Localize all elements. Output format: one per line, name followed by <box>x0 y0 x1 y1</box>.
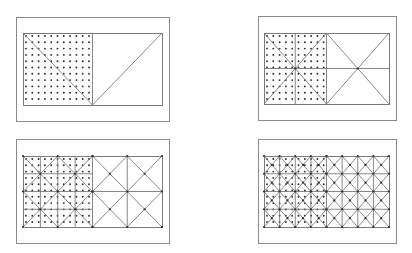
sample-dot <box>75 202 77 204</box>
vertex-node <box>357 190 359 192</box>
sample-dot <box>82 171 84 173</box>
sample-dot <box>304 177 306 179</box>
sample-dot <box>38 85 40 87</box>
sample-dot <box>75 98 77 100</box>
sample-dot <box>310 73 312 75</box>
sample-dot <box>266 73 268 75</box>
sample-dot <box>38 35 40 37</box>
vertex-node <box>388 226 390 228</box>
vertex-node <box>294 190 296 192</box>
sample-dot <box>323 41 325 43</box>
center-node <box>318 182 320 184</box>
sample-dot <box>50 202 52 204</box>
sample-dot <box>82 79 84 81</box>
vertex-node <box>325 173 327 175</box>
center-node <box>380 217 382 219</box>
sample-dot <box>316 48 318 50</box>
sample-dot <box>279 92 281 94</box>
sample-dot <box>310 41 312 43</box>
sample-dot <box>50 177 52 179</box>
sample-dot <box>69 171 71 173</box>
sample-dot <box>75 183 77 185</box>
sample-dot <box>323 215 325 217</box>
vertex-node <box>357 208 359 210</box>
sample-dot <box>50 85 52 87</box>
sample-dot <box>279 48 281 50</box>
vertex-node <box>91 226 93 228</box>
center-node <box>380 164 382 166</box>
sample-dot <box>88 183 90 185</box>
sample-dot <box>31 202 33 204</box>
sample-dot <box>63 92 65 94</box>
center-node <box>333 199 335 201</box>
vertex-node <box>294 208 296 210</box>
sample-dot <box>75 41 77 43</box>
diagonal-line <box>93 33 163 105</box>
sample-dot <box>31 54 33 56</box>
sample-dot <box>272 85 274 87</box>
vertex-node <box>263 226 265 228</box>
sample-dot <box>82 92 84 94</box>
sample-dot <box>298 41 300 43</box>
sample-dot <box>63 164 65 166</box>
sample-dot <box>304 54 306 56</box>
vertex-node <box>57 155 59 157</box>
vertex-node <box>341 173 343 175</box>
sample-dot <box>298 202 300 204</box>
vertex-node <box>294 155 296 157</box>
sample-dot <box>69 67 71 69</box>
sample-dot <box>279 98 281 100</box>
center-node <box>109 173 111 175</box>
vertex-node <box>341 190 343 192</box>
vertex-node <box>357 155 359 157</box>
sample-dot <box>38 73 40 75</box>
center-node <box>318 199 320 201</box>
sample-dot <box>323 54 325 56</box>
sample-dot <box>266 202 268 204</box>
center-node <box>380 182 382 184</box>
sample-dot <box>69 98 71 100</box>
sample-dot <box>323 92 325 94</box>
sample-dot <box>25 60 27 62</box>
vertex-node <box>91 155 93 157</box>
vertex-node <box>279 208 281 210</box>
vertex-node <box>372 208 374 210</box>
sample-dot <box>75 196 77 198</box>
vertex-node <box>388 190 390 192</box>
sample-dot <box>266 164 268 166</box>
sample-dot <box>50 92 52 94</box>
sample-dot <box>291 48 293 50</box>
sample-dot <box>88 73 90 75</box>
sample-dot <box>279 41 281 43</box>
vertex-node <box>310 208 312 210</box>
sample-dot <box>69 158 71 160</box>
sample-dot <box>88 35 90 37</box>
sample-dot <box>304 35 306 37</box>
sample-dot <box>82 158 84 160</box>
sample-dot <box>272 48 274 50</box>
sample-dot <box>316 60 318 62</box>
sample-dot <box>31 35 33 37</box>
sample-dot <box>44 79 46 81</box>
sample-dot <box>266 41 268 43</box>
sample-dot <box>316 73 318 75</box>
sample-dot <box>44 85 46 87</box>
sample-dot <box>69 196 71 198</box>
center-node <box>294 67 296 69</box>
vertex-node <box>161 155 163 157</box>
sample-dot <box>323 183 325 185</box>
sample-dot <box>298 98 300 100</box>
vertex-node <box>279 155 281 157</box>
sample-dot <box>291 183 293 185</box>
sample-dot <box>88 215 90 217</box>
sample-dot <box>304 171 306 173</box>
sample-dot <box>82 67 84 69</box>
sample-dot <box>25 215 27 217</box>
sample-dot <box>279 35 281 37</box>
sample-dot <box>88 60 90 62</box>
vertex-node <box>310 226 312 228</box>
vertex-node <box>325 155 327 157</box>
vertex-node <box>294 173 296 175</box>
sample-dot <box>31 85 33 87</box>
sample-dot <box>75 60 77 62</box>
